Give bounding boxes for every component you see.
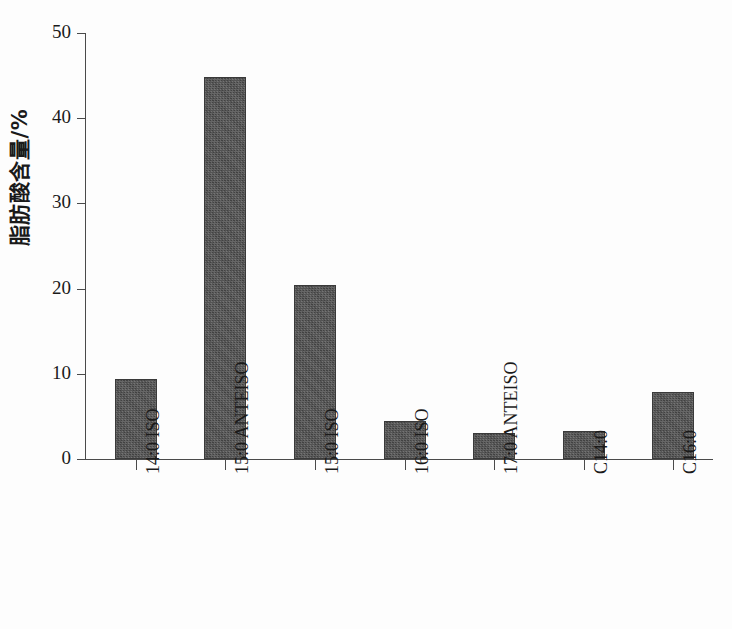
x-axis-tick — [405, 459, 406, 470]
y-axis-tick-label: 40 — [52, 107, 71, 127]
x-axis-tick-label: 15:0 ANTEISO — [233, 362, 251, 475]
y-axis-tick: 50 — [77, 33, 85, 34]
y-axis-tick: 10 — [77, 374, 85, 375]
y-axis-tick-label: 10 — [52, 363, 71, 383]
x-axis-tick — [673, 459, 674, 470]
y-axis-tick-label: 0 — [62, 448, 72, 468]
x-axis-tick-label: 16:0 ISO — [413, 408, 431, 474]
x-axis-tick — [584, 459, 585, 470]
y-axis-tick: 40 — [77, 118, 85, 119]
y-axis-tick: 20 — [77, 289, 85, 290]
x-tick-group — [85, 459, 712, 470]
y-axis-tick-label: 20 — [52, 278, 71, 298]
y-axis-tick: 30 — [77, 203, 85, 204]
x-axis-tick-label: 17:0 ANTEISO — [502, 362, 520, 475]
x-axis-tick-label: C14:0 — [592, 430, 610, 474]
x-axis-tick — [136, 459, 137, 470]
y-axis-title: 脂肪酸含量/% — [8, 109, 32, 246]
y-axis-tick: 0 — [77, 459, 85, 460]
x-axis-tick — [315, 459, 316, 470]
x-axis-tick — [225, 459, 226, 470]
x-axis-tick — [494, 459, 495, 470]
y-axis-tick-label: 50 — [52, 22, 71, 42]
x-axis-tick-label: C16:0 — [681, 430, 699, 474]
bars-group — [85, 33, 712, 459]
x-axis-tick-label: 15:0 ISO — [323, 408, 341, 474]
y-axis-tick-label: 30 — [52, 192, 71, 212]
x-axis-tick-label: 14:0 ISO — [144, 408, 162, 474]
chart-figure: 脂肪酸含量/% 01020304050 14:0 ISO15:0 ANTEISO… — [0, 0, 732, 629]
